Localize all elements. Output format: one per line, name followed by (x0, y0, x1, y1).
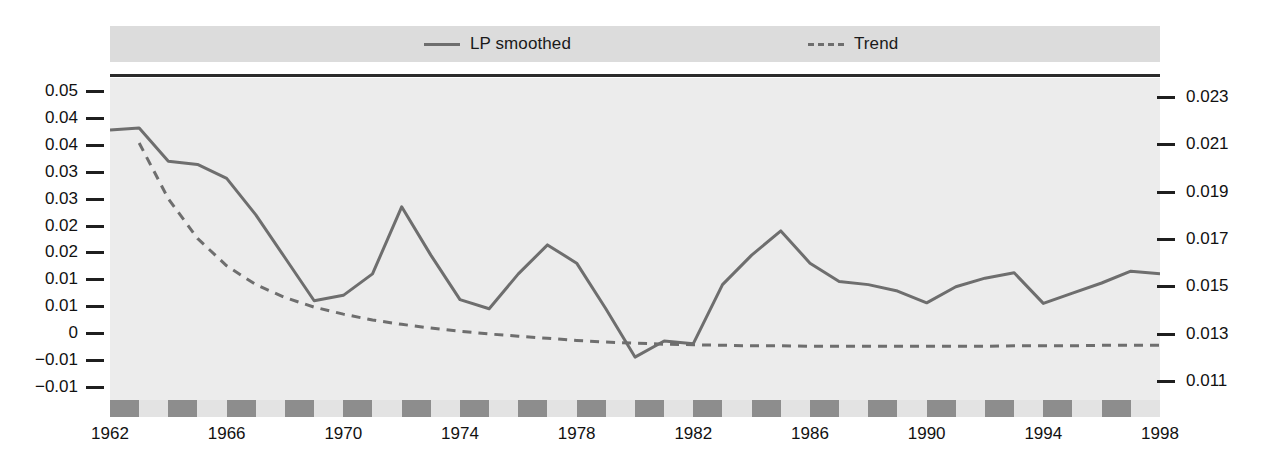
legend-line-swatch-dashed (808, 43, 844, 46)
y-axis-left-label: 0.05 (45, 82, 78, 99)
plot-top-border (110, 74, 1160, 77)
y-axis-right-tick (1157, 191, 1175, 194)
plot-area (110, 78, 1160, 400)
y-axis-left-tick (86, 198, 104, 201)
y-axis-left-tick (86, 251, 104, 254)
y-axis-left-label: 0.01 (45, 297, 78, 314)
x-axis-band-segment (752, 400, 781, 417)
x-axis-band-segment (693, 400, 722, 417)
y-axis-right-tick (1157, 380, 1175, 383)
chart-root: LP smoothed Trend 0.050.040.040.030.030.… (0, 0, 1261, 470)
y-axis-right-label: 0.017 (1186, 230, 1229, 247)
plot-canvas (110, 78, 1160, 400)
y-axis-right-tick (1157, 238, 1175, 241)
x-axis-band-segment (1102, 400, 1131, 417)
y-axis-right-tick (1157, 285, 1175, 288)
y-axis-right-label: 0.015 (1186, 277, 1229, 294)
x-axis-label: 1994 (1024, 424, 1062, 444)
x-axis-band-segment (168, 400, 197, 417)
y-axis-left-label: 0.03 (45, 163, 78, 180)
y-axis-left-tick (86, 305, 104, 308)
x-axis-band-segment (635, 400, 664, 417)
legend-item-trend: Trend (808, 26, 898, 62)
y-axis-left-label: 0 (69, 324, 78, 341)
y-axis-left-tick (86, 144, 104, 147)
x-axis-label: 1998 (1141, 424, 1179, 444)
y-axis-left-label: −0.01 (35, 351, 78, 368)
x-axis-band-segment (810, 400, 839, 417)
x-axis-interval-band (110, 400, 1160, 417)
x-axis-band-segment (110, 400, 139, 417)
y-axis-right-tick (1157, 333, 1175, 336)
legend-label-trend: Trend (854, 34, 898, 54)
series-line-lp-smoothed (110, 128, 1160, 357)
x-axis-band-segment (343, 400, 372, 417)
x-axis-band-segment (518, 400, 547, 417)
y-axis-left-tick (86, 117, 104, 120)
y-axis-left-label: 0.04 (45, 109, 78, 126)
y-axis-right-label: 0.013 (1186, 325, 1229, 342)
series-line-trend (139, 143, 1160, 346)
y-axis-right-label: 0.023 (1186, 88, 1229, 105)
y-axis-right-tick (1157, 96, 1175, 99)
y-axis-left-label: −0.01 (35, 378, 78, 395)
y-axis-left-tick (86, 90, 104, 93)
x-axis-label: 1990 (908, 424, 946, 444)
x-axis-band-segment (460, 400, 489, 417)
y-axis-left-label: 0.02 (45, 243, 78, 260)
y-axis-left-label: 0.04 (45, 136, 78, 153)
x-axis-band-segment (985, 400, 1014, 417)
x-axis-band-segment (285, 400, 314, 417)
x-axis-band-segment (227, 400, 256, 417)
x-axis-band-segment (1043, 400, 1072, 417)
y-axis-left-label: 0.03 (45, 190, 78, 207)
y-axis-left-tick (86, 332, 104, 335)
y-axis-right-tick (1157, 143, 1175, 146)
x-axis-label: 1966 (208, 424, 246, 444)
legend-label-lp-smoothed: LP smoothed (470, 34, 571, 54)
x-axis-label: 1970 (324, 424, 362, 444)
legend-line-swatch-solid (424, 43, 460, 46)
y-axis-left-tick (86, 225, 104, 228)
x-axis-band-segment (927, 400, 956, 417)
legend-item-lp-smoothed: LP smoothed (424, 26, 571, 62)
x-axis-band-segment (868, 400, 897, 417)
y-axis-left-tick (86, 278, 104, 281)
chart-legend: LP smoothed Trend (110, 26, 1160, 62)
y-axis-right-label: 0.011 (1186, 372, 1227, 389)
x-axis-label: 1982 (674, 424, 712, 444)
y-axis-right-label: 0.019 (1186, 183, 1229, 200)
y-axis-left-label: 0.02 (45, 217, 78, 234)
y-axis-left-tick (86, 171, 104, 174)
x-axis-label: 1962 (91, 424, 129, 444)
x-axis-label: 1974 (441, 424, 479, 444)
x-axis-band-segment (402, 400, 431, 417)
y-axis-left-tick (86, 359, 104, 362)
y-axis-left-tick (86, 386, 104, 389)
y-axis-left-label: 0.01 (45, 270, 78, 287)
y-axis-right-label: 0.021 (1186, 135, 1229, 152)
x-axis-band-segment (577, 400, 606, 417)
x-axis-label: 1978 (558, 424, 596, 444)
x-axis-label: 1986 (791, 424, 829, 444)
